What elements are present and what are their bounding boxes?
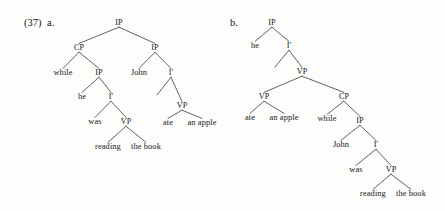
tree-node-a-reading: reading: [95, 143, 121, 151]
branch-b-ip-root-to-b-ibar: [272, 27, 289, 41]
branch-a-ip-sub-to-a-ibar-s: [99, 77, 111, 92]
branch-b-ibar-sub-to-b-vp-sub: [376, 149, 391, 165]
tree-node-a-while: while: [53, 69, 72, 77]
tree-node-b-ibar-sub: I': [374, 141, 378, 149]
branch-a-ip-sub-to-a-he: [82, 77, 99, 92]
tree-node-a-cp: CP: [74, 44, 84, 52]
branch-b-vp-top-to-b-vp-left: [264, 76, 302, 92]
branch-a-vp-s-to-a-reading: [108, 126, 126, 142]
tree-b-label: b.: [230, 18, 238, 29]
branch-a-ip-matrix-to-a-ibar-m: [155, 52, 171, 68]
trace-branch-b-ibar-0: [275, 50, 289, 67]
example-number: (37): [24, 18, 42, 29]
tree-node-b-ate: ate: [245, 114, 255, 122]
tree-node-b-john: John: [333, 141, 349, 149]
branch-a-ip-matrix-to-a-john: [139, 52, 155, 68]
tree-node-a-ip-matrix: IP: [151, 44, 158, 52]
branch-b-vp-top-to-b-cp: [302, 76, 344, 92]
tree-node-a-ip-root: IP: [115, 19, 122, 27]
tree-node-b-vp-sub: VP: [386, 166, 397, 174]
branch-b-ip-root-to-b-he: [255, 27, 272, 41]
tree-node-b-thebook: the book: [396, 190, 426, 198]
tree-node-b-ip-sub: IP: [356, 117, 363, 125]
branch-a-vp-s-to-a-thebook: [126, 126, 146, 142]
tree-node-a-anapple: an apple: [188, 119, 217, 127]
branch-b-ip-sub-to-b-john: [341, 125, 360, 140]
tree-node-a-ate: ate: [163, 119, 173, 127]
branch-b-ip-sub-to-b-ibar-sub: [360, 125, 376, 140]
tree-node-a-was: was: [88, 118, 101, 126]
tree-node-b-he: he: [251, 42, 259, 50]
branch-b-vp-sub-to-b-thebook: [391, 174, 411, 189]
tree-node-b-vp-top: VP: [297, 68, 308, 76]
trace-branch-a-ibar-m-0: [157, 77, 171, 95]
branch-a-ip-root-to-a-cp: [79, 27, 119, 43]
branch-b-vp-left-to-b-ate: [250, 101, 264, 113]
tree-node-b-while: while: [317, 115, 336, 123]
tree-branch-lines: [0, 0, 445, 211]
branch-b-ibar-to-b-vp-top: [289, 50, 302, 67]
tree-node-a-ibar-m: I': [169, 69, 173, 77]
example-figure-page: (37) a. b. IPCPIPwhileIPJohnI'heI'VPwasV…: [0, 0, 445, 211]
tree-node-a-he: he: [78, 93, 86, 101]
tree-node-b-ibar: I': [287, 42, 291, 50]
branch-a-cp-to-a-while: [63, 52, 79, 68]
tree-node-a-john: John: [131, 69, 147, 77]
branch-a-ibar-s-to-a-was: [95, 101, 111, 117]
tree-node-b-reading: reading: [360, 190, 386, 198]
branch-b-ibar-sub-to-b-was: [356, 149, 376, 165]
tree-node-b-ip-root: IP: [268, 19, 275, 27]
tree-node-b-anapple: an apple: [270, 114, 299, 122]
branch-b-cp-to-b-while: [327, 101, 344, 114]
tree-node-a-thebook: the book: [131, 143, 161, 151]
branch-a-cp-to-a-ip-sub: [79, 52, 99, 68]
branch-a-ibar-s-to-a-vp-s: [111, 101, 126, 117]
tree-node-a-ip-sub: IP: [95, 69, 102, 77]
branch-b-cp-to-b-ip-sub: [344, 101, 360, 116]
tree-a-label: a.: [47, 18, 54, 29]
branch-a-ip-root-to-a-ip-matrix: [119, 27, 155, 43]
branch-a-ibar-m-to-a-vp-m: [171, 77, 182, 101]
branch-b-vp-sub-to-b-reading: [373, 174, 391, 189]
branch-b-vp-left-to-b-anapple: [264, 101, 284, 113]
tree-node-a-vp-m: VP: [177, 102, 188, 110]
tree-node-b-was: was: [349, 166, 362, 174]
tree-node-b-cp: CP: [339, 93, 349, 101]
tree-node-a-vp-s: VP: [121, 118, 132, 126]
tree-node-a-ibar-s: I': [109, 93, 113, 101]
tree-node-b-vp-left: VP: [259, 93, 270, 101]
